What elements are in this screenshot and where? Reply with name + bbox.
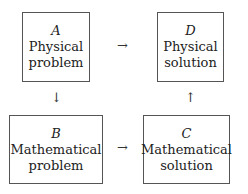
arrow-right-icon-a-to-d: → (117, 39, 128, 52)
box-c-mathematical-solution: C Mathematical solution (143, 115, 230, 184)
box-c-letter: C (182, 126, 192, 142)
box-c-line1: Mathematical (141, 142, 232, 158)
arrow-right-icon-b-to-c: → (117, 141, 128, 154)
box-a-line1: Physical (29, 39, 83, 55)
box-d-line2: solution (164, 55, 217, 71)
box-a-physical-problem: A Physical problem (22, 12, 90, 82)
box-a-line2: problem (29, 55, 84, 71)
arrow-down-icon-a-to-b: ↓ (51, 91, 62, 104)
box-a-letter: A (51, 23, 60, 39)
arrow-up-icon-c-to-d: ↑ (185, 91, 196, 104)
box-d-letter: D (185, 23, 195, 39)
box-d-physical-solution: D Physical solution (157, 12, 224, 82)
box-d-line1: Physical (163, 39, 217, 55)
box-b-line2: problem (29, 158, 84, 174)
box-c-line2: solution (160, 158, 213, 174)
box-b-letter: B (51, 126, 61, 142)
box-b-line1: Mathematical (11, 142, 102, 158)
box-b-mathematical-problem: B Mathematical problem (9, 115, 103, 184)
